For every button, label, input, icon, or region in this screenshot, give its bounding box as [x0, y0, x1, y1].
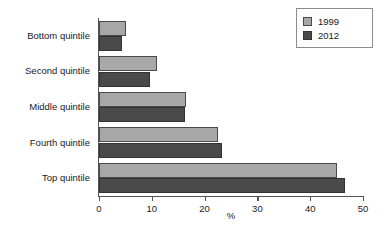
category-label-3: Fourth quintile — [0, 138, 90, 148]
category-label-1: Second quintile — [0, 66, 90, 76]
legend-label-1999: 1999 — [318, 16, 339, 27]
x-tick-30 — [257, 196, 258, 201]
bar-1999-2 — [99, 92, 186, 107]
category-axis-labels: Bottom quintileSecond quintileMiddle qui… — [0, 18, 94, 196]
category-label-2: Middle quintile — [0, 102, 90, 112]
legend-swatch-icon-1999 — [303, 17, 312, 26]
legend: 1999 2012 — [296, 8, 373, 48]
bar-2012-1 — [99, 72, 150, 87]
bar-1999-1 — [99, 56, 157, 71]
bar-1999-3 — [99, 127, 218, 142]
bar-2012-4 — [99, 178, 345, 193]
x-tick-0 — [99, 196, 100, 201]
bar-1999-0 — [99, 21, 126, 36]
legend-label-2012: 2012 — [318, 30, 339, 41]
legend-item-1999: 1999 — [303, 14, 366, 28]
x-axis-line — [98, 196, 363, 197]
bar-chart: Bottom quintileSecond quintileMiddle qui… — [0, 0, 385, 235]
category-label-4: Top quintile — [0, 173, 90, 183]
legend-item-2012: 2012 — [303, 28, 366, 42]
x-axis-title: % — [99, 210, 363, 221]
x-tick-10 — [152, 196, 153, 201]
x-tick-20 — [205, 196, 206, 201]
x-tick-50 — [363, 196, 364, 201]
bar-2012-2 — [99, 107, 185, 122]
category-label-0: Bottom quintile — [0, 31, 90, 41]
legend-swatch-icon-2012 — [303, 31, 312, 40]
bar-1999-4 — [99, 163, 337, 178]
bar-2012-3 — [99, 143, 222, 158]
x-tick-40 — [310, 196, 311, 201]
bar-2012-0 — [99, 36, 122, 51]
